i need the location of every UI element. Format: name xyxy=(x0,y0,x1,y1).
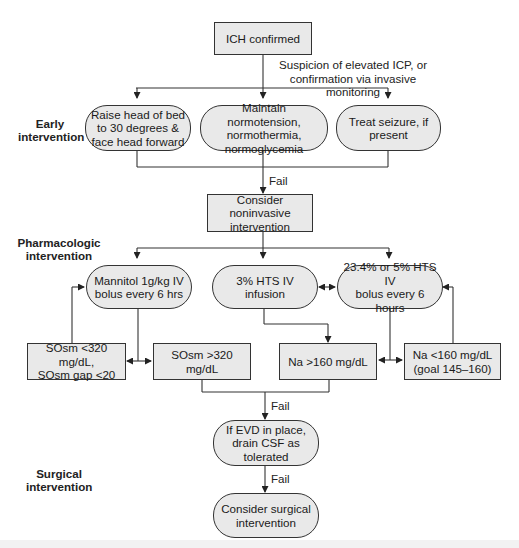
bottom-edge-strip xyxy=(0,540,519,548)
section-label-early: Early intervention xyxy=(18,117,82,143)
node-23pct-hts: 23.4% or 5% HTS IV bolus every 6 hours xyxy=(337,265,443,309)
node-consider-surgical: Consider surgical intervention xyxy=(213,493,319,538)
section-label-surgical: Surgical intervention xyxy=(26,467,92,493)
node-treat-seizure: Treat seizure, if present xyxy=(336,105,441,151)
edge-label-fail-3: Fail xyxy=(271,472,290,485)
node-raise-head: Raise head of bed to 30 degrees & face h… xyxy=(85,105,191,151)
node-na-high: Na >160 mg/dL xyxy=(279,343,377,380)
node-na-low: Na <160 mg/dL (goal 145–160) xyxy=(404,343,501,380)
node-sosm-low: SOsm <320 mg/dL, SOsm gap <20 xyxy=(27,343,126,380)
edge-label-trigger: Suspicion of elevated ICP, or confirmati… xyxy=(268,58,438,99)
node-ich-confirmed: ICH confirmed xyxy=(214,22,312,55)
node-mannitol: Mannitol 1g/kg IV bolus every 6 hrs xyxy=(86,265,192,309)
node-consider-noninvasive: Consider noninvasive intervention xyxy=(207,194,313,232)
section-label-pharmacologic: Pharmacologic intervention xyxy=(16,236,102,262)
node-maintain-normal: Maintain normotension, normothermia, nor… xyxy=(200,105,328,151)
edge-label-fail-1: Fail xyxy=(269,174,288,187)
node-evd-drain: If EVD in place, drain CSF as tolerated xyxy=(213,420,319,466)
flowchart: Early intervention Pharmacologic interve… xyxy=(0,0,519,548)
node-sosm-high: SOsm >320 mg/dL xyxy=(153,343,251,380)
node-3pct-hts: 3% HTS IV infusion xyxy=(212,265,318,309)
edge-label-fail-2: Fail xyxy=(271,399,290,412)
